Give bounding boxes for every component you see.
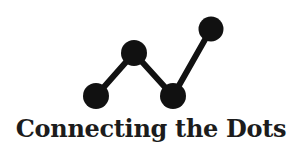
dot-1 <box>83 83 109 109</box>
logo-canvas: Connecting the Dots <box>0 0 302 159</box>
dot-3 <box>160 83 186 109</box>
connecting-line <box>96 29 211 96</box>
dots-group <box>83 17 224 110</box>
logo-wordmark: Connecting the Dots <box>0 114 302 144</box>
dot-4 <box>199 17 224 42</box>
dot-2 <box>121 40 147 66</box>
